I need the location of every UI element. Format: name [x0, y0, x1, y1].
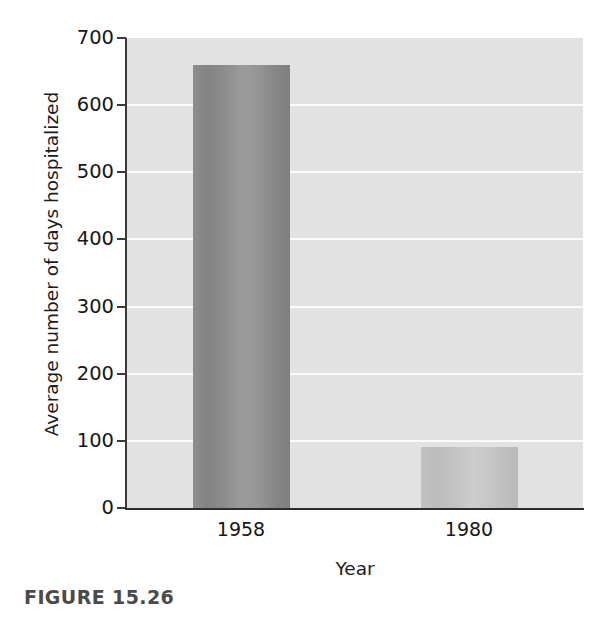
x-axis-title: Year — [127, 558, 583, 579]
y-tick-label: 600 — [52, 95, 114, 115]
x-tick-label-1980: 1980 — [409, 518, 529, 540]
x-axis-line — [125, 508, 584, 510]
x-tick-label-1958: 1958 — [181, 518, 301, 540]
y-axis-tick-labels: 700 600 500 400 300 200 100 0 — [52, 38, 114, 508]
bar-1980[interactable] — [421, 447, 518, 508]
figure-container: Average number of days hospitalized 700 … — [0, 0, 610, 618]
y-tick-label: 500 — [52, 163, 114, 183]
y-tick-label: 400 — [52, 230, 114, 250]
y-tick-label: 100 — [52, 431, 114, 451]
plot-area — [127, 38, 583, 508]
y-tick-label: 700 — [52, 28, 114, 48]
y-tick-label: 200 — [52, 364, 114, 384]
bar-1958[interactable] — [193, 65, 290, 508]
y-tick-label: 0 — [52, 498, 114, 518]
y-axis-line — [125, 38, 127, 510]
figure-caption: FIGURE 15.26 — [24, 586, 174, 608]
y-tick-label: 300 — [52, 297, 114, 317]
